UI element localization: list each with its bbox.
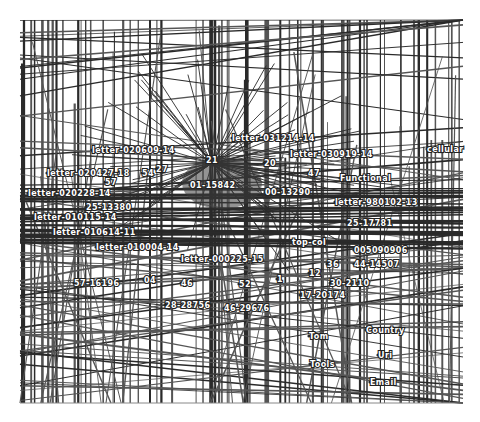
node-label[interactable]: 25-13380 — [86, 203, 132, 212]
node-label[interactable]: 52 — [239, 280, 251, 289]
node-label[interactable]: 17-20174 — [300, 291, 346, 300]
node-label[interactable]: letter-020228-14 — [28, 189, 111, 198]
node-label[interactable]: 005090906 — [354, 246, 408, 255]
node-label[interactable]: cellular — [427, 145, 464, 154]
node-label[interactable]: Tom — [309, 332, 328, 341]
node-label[interactable]: 04 — [144, 276, 156, 285]
node-label[interactable]: 30-2110 — [330, 279, 370, 288]
node-label[interactable]: Tools — [310, 360, 335, 369]
node-label[interactable]: 1 — [277, 275, 283, 284]
node-label[interactable]: letter-030919-14 — [290, 150, 373, 159]
node-label[interactable]: letter-020609-14 — [92, 146, 175, 155]
node-label[interactable]: 54 — [142, 169, 154, 178]
node-label[interactable]: 44-14507 — [354, 260, 400, 269]
node-label[interactable]: 57-16196 — [74, 279, 120, 288]
node-label[interactable]: top-col — [292, 238, 326, 247]
node-label[interactable]: 46-29676 — [224, 304, 270, 313]
node-label[interactable]: Uri — [378, 351, 392, 360]
network-graph-canvas: letter-020609-14letter-031214-14letter-0… — [0, 0, 480, 422]
node-label[interactable]: Functional — [340, 174, 391, 183]
node-label[interactable]: 01-15842 — [190, 181, 236, 190]
node-label[interactable]: letter-000225-15 — [181, 255, 264, 264]
node-label[interactable]: 00-13290 — [265, 188, 311, 197]
node-label[interactable]: Country — [366, 326, 405, 335]
node-label[interactable]: letter-010115-14 — [34, 213, 117, 222]
network-graph: letter-020609-14letter-031214-14letter-0… — [0, 0, 480, 422]
node-label[interactable]: 20 — [264, 159, 276, 168]
node-label[interactable]: 12 — [309, 269, 321, 278]
node-label[interactable]: letter-010614-11 — [53, 228, 136, 237]
node-label[interactable]: letter-020427-18 — [47, 169, 130, 178]
node-label[interactable]: 21 — [206, 156, 218, 165]
node-label[interactable]: letter-980102-13 — [335, 198, 418, 207]
node-label[interactable]: 27 — [156, 165, 168, 174]
node-label[interactable]: 46 — [181, 279, 193, 288]
node-label[interactable]: letter-010004-14 — [96, 243, 179, 252]
node-label[interactable]: 57 — [105, 178, 117, 187]
node-label[interactable]: Email — [370, 378, 397, 387]
node-label[interactable]: 36 — [327, 260, 339, 269]
node-label[interactable]: 25-17781 — [347, 219, 393, 228]
node-label[interactable]: 28-28756 — [165, 301, 211, 310]
node-label[interactable]: 47 — [308, 169, 320, 178]
node-label[interactable]: letter-031214-14 — [232, 134, 315, 143]
